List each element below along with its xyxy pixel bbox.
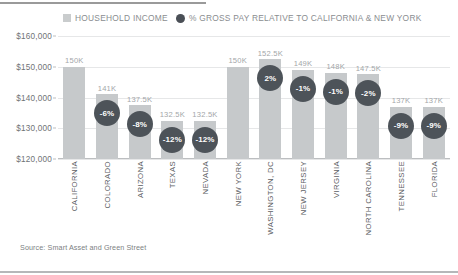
- bar-group[interactable]: 132.5K-12%: [194, 36, 216, 159]
- legend-item-household-income: HOUSEHOLD INCOME: [63, 13, 168, 23]
- x-axis-category-label: NEVADA: [201, 161, 210, 195]
- bar-value-label: 141K: [98, 84, 117, 93]
- legend-label-gross-pay: % GROSS PAY RELATIVE TO CALIFORNIA & NEW…: [189, 13, 422, 23]
- bar-group[interactable]: 132.5K-12%: [161, 36, 183, 159]
- x-axis-category-label: NORTH CAROLINA: [364, 161, 373, 236]
- bar-value-label: 137K: [424, 96, 443, 105]
- bar-value-label: 150K: [228, 56, 247, 65]
- bar-value-label: 148K: [326, 62, 345, 71]
- y-axis-tick-label: $140,000: [16, 93, 52, 102]
- x-axis: CALIFORNIACOLORADOARIZONATEXASNEVADANEW …: [58, 161, 450, 233]
- square-swatch-icon: [63, 14, 71, 22]
- x-axis-category-label: NEW YORK: [234, 161, 243, 206]
- bar-group[interactable]: 150K: [63, 36, 85, 159]
- x-axis-category-label: NEW JERSEY: [299, 161, 308, 215]
- bar-value-label: 132.5K: [192, 110, 217, 119]
- x-axis-category-label: COLORADO: [103, 161, 112, 208]
- bottom-divider: [0, 271, 458, 273]
- bar-group[interactable]: 137.5K-8%: [129, 36, 151, 159]
- bar-group[interactable]: 152.5K2%: [259, 36, 281, 159]
- x-axis-category-label: WASHINGTON, DC: [266, 161, 275, 235]
- bar-group[interactable]: 137K-9%: [423, 36, 445, 159]
- source-note: Source: Smart Asset and Green Street: [20, 243, 146, 252]
- y-axis-tick-label: $160,000: [16, 32, 52, 41]
- legend-label-household-income: HOUSEHOLD INCOME: [75, 13, 168, 23]
- percent-bubble[interactable]: -9%: [388, 113, 414, 139]
- percent-bubble[interactable]: -9%: [421, 113, 447, 139]
- bar-value-label: 150K: [65, 56, 84, 65]
- bar-value-label: 152.5K: [258, 49, 283, 58]
- bar-value-label: 147.5K: [356, 64, 381, 73]
- percent-bubble[interactable]: -1%: [323, 79, 349, 105]
- bar-group[interactable]: 137K-9%: [390, 36, 412, 159]
- x-axis-category-label: VIRGINIA: [332, 161, 341, 198]
- x-axis-category-label: CALIFORNIA: [70, 161, 79, 211]
- y-axis-tick: [53, 159, 56, 160]
- top-divider: [0, 2, 206, 4]
- circle-swatch-icon: [176, 14, 185, 23]
- percent-bubble[interactable]: -2%: [355, 80, 381, 106]
- y-axis-tick-label: $120,000: [16, 155, 52, 164]
- percent-bubble[interactable]: -8%: [127, 111, 153, 137]
- y-axis: $160,000$150,000$140,000$130,000$120,000: [0, 36, 56, 159]
- x-axis-category-label: TEXAS: [168, 161, 177, 188]
- x-axis-category-label: TENNESSEE: [397, 161, 406, 211]
- bar-series: 150K141K-6%137.5K-8%132.5K-12%132.5K-12%…: [58, 36, 450, 159]
- x-axis-category-label: FLORIDA: [430, 161, 439, 197]
- bar-group[interactable]: 150K: [227, 36, 249, 159]
- y-axis-tick: [53, 97, 56, 98]
- chart-legend: HOUSEHOLD INCOME % GROSS PAY RELATIVE TO…: [63, 13, 422, 23]
- percent-bubble[interactable]: -12%: [192, 127, 218, 153]
- bar-group[interactable]: 141K-6%: [96, 36, 118, 159]
- x-axis-category-label: ARIZONA: [136, 161, 145, 198]
- bar[interactable]: [63, 67, 85, 159]
- y-axis-tick: [53, 128, 56, 129]
- percent-bubble[interactable]: -12%: [159, 127, 185, 153]
- y-axis-tick: [53, 36, 56, 37]
- gridline: [58, 159, 450, 160]
- bar-group[interactable]: 148K-1%: [325, 36, 347, 159]
- percent-bubble[interactable]: -1%: [290, 76, 316, 102]
- bar-value-label: 132.5K: [160, 110, 185, 119]
- bar-value-label: 137.5K: [127, 95, 152, 104]
- bar-value-label: 149K: [294, 59, 313, 68]
- bar[interactable]: [227, 67, 249, 159]
- legend-item-gross-pay: % GROSS PAY RELATIVE TO CALIFORNIA & NEW…: [176, 13, 422, 23]
- y-axis-tick-label: $130,000: [16, 124, 52, 133]
- percent-bubble[interactable]: 2%: [257, 65, 283, 91]
- bar-value-label: 137K: [392, 96, 411, 105]
- bar-group[interactable]: 147.5K-2%: [357, 36, 379, 159]
- bar-group[interactable]: 149K-1%: [292, 36, 314, 159]
- y-axis-tick-label: $150,000: [16, 62, 52, 71]
- y-axis-tick: [53, 66, 56, 67]
- percent-bubble[interactable]: -6%: [94, 100, 120, 126]
